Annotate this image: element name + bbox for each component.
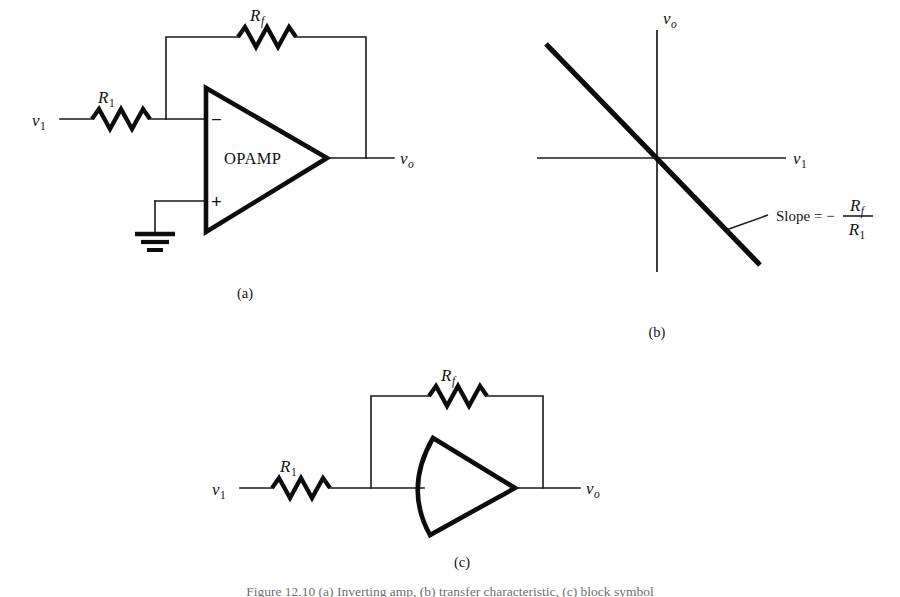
panel-b-slope-numerator: Rf bbox=[849, 196, 866, 218]
figure-svg: v1 vo R1 Rf − + OPAMP (a) vo v1 Slope = … bbox=[0, 0, 900, 597]
panel-c-caption: (c) bbox=[454, 554, 470, 571]
panel-b-x-axis-label: v1 bbox=[793, 149, 807, 170]
panel-a-ground-icon bbox=[135, 234, 175, 250]
panel-c-rf-label: Rf bbox=[440, 366, 457, 388]
panel-b-slope-annotation: Slope = − Rf R1 bbox=[776, 196, 873, 241]
panel-a-rf-label: Rf bbox=[249, 6, 266, 28]
panel-c-input-label: v1 bbox=[212, 480, 226, 501]
panel-b-slope-denominator: R1 bbox=[848, 220, 866, 241]
panel-b-annotation-leader bbox=[726, 215, 768, 230]
panel-a-caption: (a) bbox=[237, 285, 253, 302]
panel-a-device-label: OPAMP bbox=[224, 149, 281, 168]
panel-a-input-label: v1 bbox=[32, 111, 46, 132]
panel-a-r1-label: R1 bbox=[97, 88, 115, 109]
panel-c: v1 vo R1 Rf (c) bbox=[212, 366, 600, 571]
panel-b-y-axis-label: vo bbox=[663, 9, 677, 30]
panel-a-feedback-wire-left bbox=[166, 37, 238, 119]
panel-b-slope-text: Slope = − bbox=[776, 208, 835, 224]
panel-a-feedback-wire-right bbox=[296, 37, 366, 158]
panel-a-rf-resistor-icon bbox=[238, 27, 296, 47]
figure-root: v1 vo R1 Rf − + OPAMP (a) vo v1 Slope = … bbox=[0, 0, 900, 597]
panel-c-output-label: vo bbox=[586, 479, 600, 500]
panel-b-transfer-line bbox=[546, 44, 760, 265]
panel-b: vo v1 Slope = − Rf R1 (b) bbox=[537, 9, 873, 341]
panel-a-noninverting-pin-label: + bbox=[211, 191, 222, 212]
panel-c-r1-resistor-icon bbox=[272, 478, 330, 498]
panel-c-r1-label: R1 bbox=[279, 457, 297, 478]
panel-a: v1 vo R1 Rf − + OPAMP (a) bbox=[32, 6, 414, 302]
panel-a-output-label: vo bbox=[400, 149, 414, 170]
panel-c-amplifier-block-icon bbox=[418, 438, 515, 535]
panel-a-inverting-pin-label: − bbox=[211, 109, 222, 130]
panel-a-r1-resistor-icon bbox=[92, 109, 150, 129]
panel-c-rf-resistor-icon bbox=[429, 386, 487, 406]
panel-b-caption: (b) bbox=[649, 324, 666, 341]
figure-caption: Figure 12.10 (a) Inverting amp, (b) tran… bbox=[0, 585, 900, 597]
figure-caption-clip: Figure 12.10 (a) Inverting amp, (b) tran… bbox=[0, 585, 900, 597]
